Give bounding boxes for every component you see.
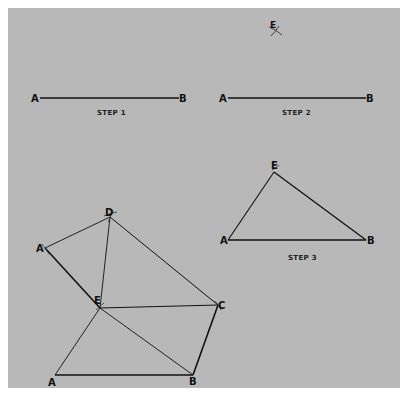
step3-group: A B E STEP 3 <box>220 160 375 262</box>
step3-label-a: A <box>220 235 228 246</box>
edge-a-prime-d <box>45 217 110 248</box>
step1-label-b: B <box>179 93 187 104</box>
edge-a-prime-e <box>45 248 100 308</box>
step2-label-e: E <box>270 20 276 30</box>
polygon-figure: D A E C A B <box>36 207 225 388</box>
step3-label-b: B <box>367 235 375 246</box>
step2-label-a: A <box>219 93 227 104</box>
figure-label-a: A <box>48 377 56 388</box>
figure-label-b: B <box>189 376 197 387</box>
edge-ea <box>55 308 100 375</box>
edge-bc <box>193 305 218 375</box>
edge-de <box>100 217 110 308</box>
step1-label-a: A <box>31 93 39 104</box>
step1-caption: STEP 1 <box>97 109 126 117</box>
step3-segment-eb <box>274 172 366 240</box>
step2-label-b: B <box>366 93 374 104</box>
step2-group: A B STEP 2 E <box>219 20 374 117</box>
step3-caption: STEP 3 <box>288 254 317 262</box>
edge-ec <box>100 305 218 308</box>
step3-label-e: E <box>271 160 278 171</box>
figure-label-a-prime: A <box>36 243 44 254</box>
figure-label-d: D <box>105 207 113 218</box>
step2-caption: STEP 2 <box>282 109 311 117</box>
figure-label-e: E <box>94 295 101 306</box>
edge-eb <box>100 308 193 375</box>
edge-dc <box>110 217 218 305</box>
step1-group: A B STEP 1 <box>31 93 187 117</box>
construction-diagram: A B STEP 1 A B STEP 2 E A B E STEP 3 <box>0 0 409 394</box>
figure-label-c: C <box>218 300 225 311</box>
step3-segment-ae <box>228 172 274 240</box>
